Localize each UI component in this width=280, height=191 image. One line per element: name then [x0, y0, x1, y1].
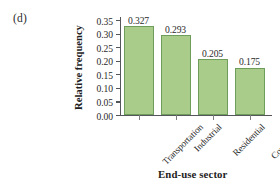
y-axis-tick: 0.25	[116, 47, 121, 48]
y-axis-tick: 0.35	[116, 20, 121, 21]
x-axis-tick	[139, 115, 140, 120]
y-axis-line	[120, 17, 121, 115]
y-axis-title: Relative frequency	[71, 20, 85, 115]
x-axis-tick	[176, 115, 177, 120]
y-axis-tick: 0.30	[116, 34, 121, 35]
bar: 0.205	[198, 59, 228, 115]
plot-area: 0.000.050.100.150.200.250.300.35 0.3270.…	[120, 20, 268, 115]
y-axis-tick-label: 0.15	[97, 69, 113, 80]
bar: 0.327	[124, 26, 154, 115]
x-axis-title: End-use sector	[158, 168, 227, 180]
figure-panel-d: (d) Relative frequency 0.000.050.100.150…	[0, 0, 280, 191]
y-axis-tick: 0.10	[116, 88, 121, 89]
y-axis-tick-label: 0.10	[97, 83, 113, 94]
y-axis-tick-label: 0.00	[97, 110, 113, 121]
y-axis-tick-label: 0.20	[97, 56, 113, 67]
bar: 0.293	[161, 35, 191, 115]
x-axis-category-label: Residential	[230, 122, 266, 158]
y-axis-tick-label: 0.05	[97, 97, 113, 108]
x-axis-tick	[213, 115, 214, 120]
x-axis-category-label: Commercial	[269, 122, 280, 161]
bar: 0.175	[235, 68, 265, 116]
y-axis-tick-label: 0.25	[97, 42, 113, 53]
y-axis-tick: 0.00	[116, 115, 121, 116]
y-axis-tick-label: 0.35	[97, 15, 113, 26]
bar-value-label: 0.327	[128, 15, 149, 26]
bar-value-label: 0.205	[202, 48, 223, 59]
y-axis-tick-label: 0.30	[97, 29, 113, 40]
bar-value-label: 0.175	[239, 56, 260, 67]
y-axis-tick: 0.20	[116, 61, 121, 62]
panel-label: (d)	[13, 12, 27, 24]
y-axis-tick: 0.05	[116, 101, 121, 102]
y-axis-tick: 0.15	[116, 74, 121, 75]
x-axis-tick	[250, 115, 251, 120]
bar-value-label: 0.293	[165, 24, 186, 35]
